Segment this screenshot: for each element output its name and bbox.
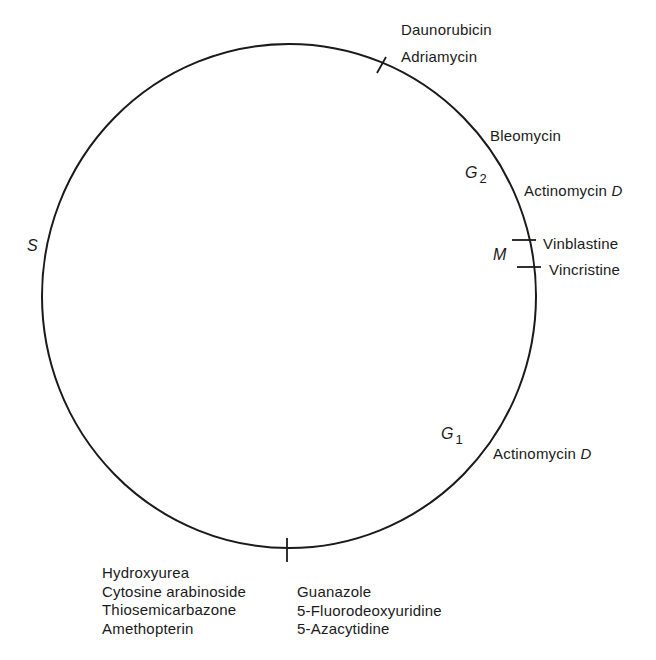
drug-actinomycin-g1-text: Actinomycin — [493, 445, 580, 462]
drug-adriamycin: Adriamycin — [401, 48, 477, 66]
drug-amethopterin: Amethopterin — [102, 620, 246, 639]
drug-vincristine: Vincristine — [549, 261, 620, 279]
drug-actinomycin-g2-text: Actinomycin — [524, 182, 611, 199]
cell-cycle-circle — [42, 44, 536, 548]
tick-adriamycin — [377, 57, 386, 73]
drug-cytosine-arabinoside: Cytosine arabinoside — [102, 583, 246, 602]
phase-m-label: M — [493, 246, 506, 264]
phase-g2-letter: G — [465, 164, 477, 181]
drug-actinomycin-g2-d: D — [611, 182, 622, 199]
phase-g1-letter: G — [441, 425, 453, 442]
drug-hydroxyurea: Hydroxyurea — [102, 564, 246, 583]
phase-g1-sub: 1 — [455, 432, 462, 447]
g1-s-drug-list: Guanazole 5-Fluorodeoxyuridine 5-Azacyti… — [297, 583, 442, 639]
phase-g1-label: G1 — [441, 425, 463, 447]
drug-vinblastine: Vinblastine — [543, 235, 618, 253]
phase-s-label: S — [27, 237, 38, 255]
drug-actinomycin-d-g2: Actinomycin D — [524, 182, 622, 200]
cell-cycle-circle-svg — [0, 0, 656, 660]
phase-g2-sub: 2 — [479, 171, 486, 186]
drug-guanazole: Guanazole — [297, 583, 442, 602]
drug-actinomycin-g1-d: D — [580, 445, 591, 462]
drug-actinomycin-d-g1: Actinomycin D — [493, 445, 591, 463]
drug-thiosemicarbazone: Thiosemicarbazone — [102, 601, 246, 620]
s-phase-drug-list: Hydroxyurea Cytosine arabinoside Thiosem… — [102, 564, 246, 638]
drug-bleomycin: Bleomycin — [490, 127, 561, 145]
drug-5-azacytidine: 5-Azacytidine — [297, 620, 442, 639]
drug-5-fluorodeoxyuridine: 5-Fluorodeoxyuridine — [297, 602, 442, 621]
drug-daunorubicin: Daunorubicin — [401, 21, 492, 39]
phase-g2-label: G2 — [465, 164, 487, 186]
